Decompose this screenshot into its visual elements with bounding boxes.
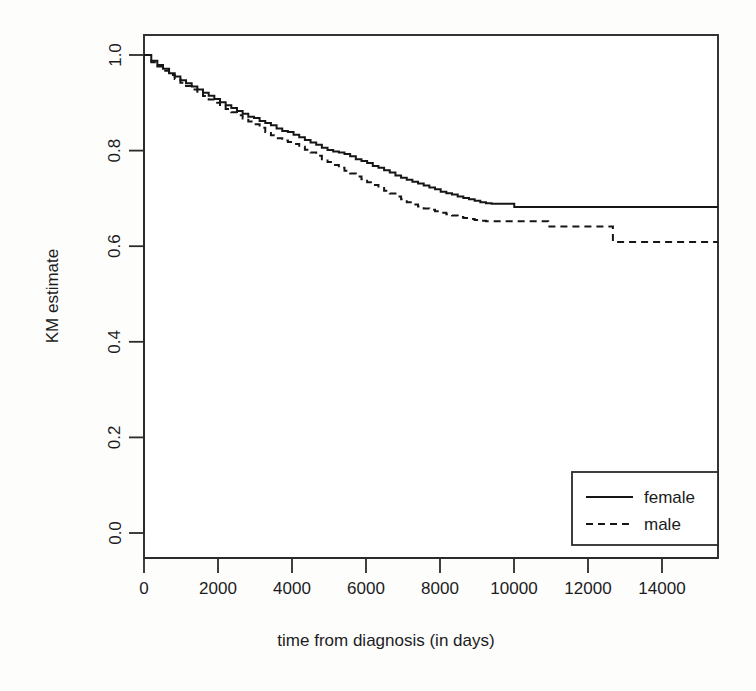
x-tick-label-1: 2000 (199, 579, 237, 598)
y-tick-label-0: 0.0 (106, 521, 125, 545)
x-tick-label-0: 0 (139, 579, 148, 598)
y-axis: 0.0 0.2 0.4 0.6 0.8 1.0 KM estimate (43, 43, 145, 545)
x-tick-label-5: 10000 (490, 579, 537, 598)
y-tick-label-1: 0.2 (106, 426, 125, 450)
legend-label-female: female (644, 488, 695, 507)
legend[interactable]: female male (572, 472, 718, 545)
y-tick-label-5: 1.0 (106, 43, 125, 67)
y-tick-label-3: 0.6 (106, 234, 125, 258)
y-axis-tick-labels: 0.0 0.2 0.4 0.6 0.8 1.0 (106, 43, 125, 545)
y-tick-label-4: 0.8 (106, 139, 125, 163)
x-axis-title: time from diagnosis (in days) (277, 631, 494, 650)
x-axis: 0 2000 4000 6000 8000 10000 12000 14000 … (139, 558, 718, 650)
x-axis-ticks (144, 558, 662, 573)
x-axis-tick-labels: 0 2000 4000 6000 8000 10000 12000 14000 (139, 579, 685, 598)
x-tick-label-3: 6000 (347, 579, 385, 598)
legend-box (572, 472, 718, 545)
x-tick-label-2: 4000 (273, 579, 311, 598)
y-tick-label-2: 0.4 (106, 330, 125, 354)
x-tick-label-6: 12000 (564, 579, 611, 598)
y-axis-ticks (129, 55, 144, 533)
x-tick-label-7: 14000 (638, 579, 685, 598)
legend-label-male: male (644, 515, 681, 534)
kaplan-meier-plot-page: 0.0 0.2 0.4 0.6 0.8 1.0 KM estimate (0, 0, 756, 691)
y-axis-title: KM estimate (43, 249, 62, 343)
survival-plot-figure: 0.0 0.2 0.4 0.6 0.8 1.0 KM estimate (0, 0, 756, 691)
x-tick-label-4: 8000 (421, 579, 459, 598)
